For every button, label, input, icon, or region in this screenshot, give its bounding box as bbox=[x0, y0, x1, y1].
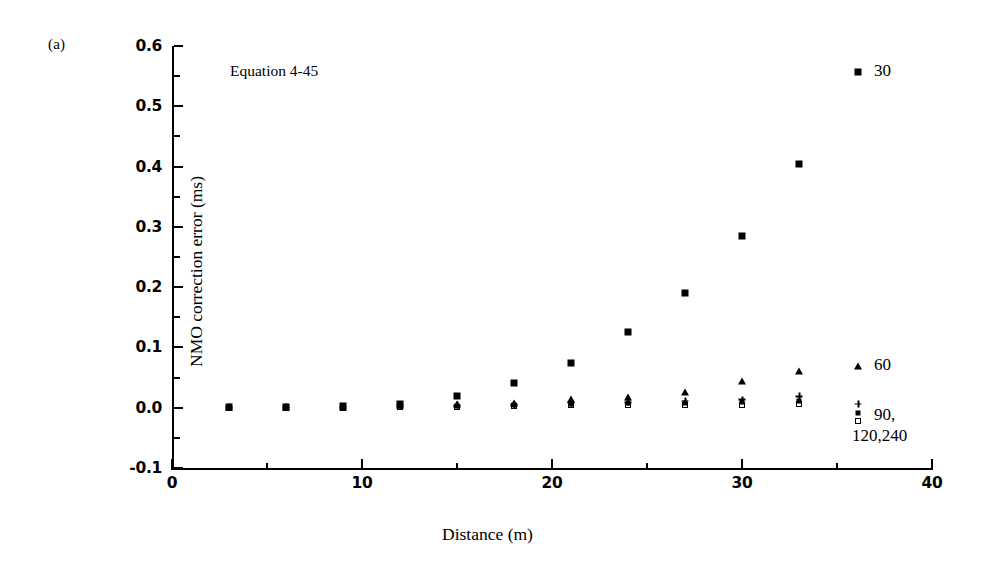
x-tick-minor bbox=[646, 463, 648, 470]
y-tick-major bbox=[174, 45, 183, 47]
marker-filled-square bbox=[511, 379, 518, 386]
marker-filled-square bbox=[682, 289, 689, 296]
data-point bbox=[682, 289, 689, 296]
y-tick-minor bbox=[174, 377, 180, 379]
panel-letter: (a) bbox=[48, 36, 65, 53]
legend-entry-60-swatch bbox=[854, 363, 862, 370]
data-point bbox=[739, 232, 746, 239]
marker-plus bbox=[682, 398, 689, 405]
legend-entry-group-swatch bbox=[855, 418, 861, 424]
marker-filled-square bbox=[739, 232, 746, 239]
equation-annotation: Equation 4-45 bbox=[230, 62, 318, 80]
x-axis-title: Distance (m) bbox=[0, 524, 985, 545]
x-tick-labels: 010203040 bbox=[172, 474, 932, 504]
data-point bbox=[739, 396, 746, 403]
legend-entry-30-swatch bbox=[855, 69, 862, 76]
x-tick-major bbox=[171, 459, 173, 470]
marker-plus bbox=[855, 401, 862, 408]
y-tick-major bbox=[174, 166, 183, 168]
data-point bbox=[568, 359, 575, 366]
y-tick-major bbox=[174, 105, 183, 107]
data-point bbox=[340, 402, 347, 409]
data-point bbox=[283, 403, 290, 410]
y-tick-major bbox=[174, 226, 183, 228]
data-point bbox=[796, 393, 803, 400]
y-tick-minor bbox=[174, 75, 180, 77]
y-tick-label: 0.0 bbox=[135, 399, 162, 417]
data-point bbox=[682, 398, 689, 405]
marker-filled-square bbox=[340, 402, 347, 409]
figure-canvas: (a) Equation 4-45 306090,120,240 -0.10.0… bbox=[0, 0, 985, 578]
y-tick-label: 0.4 bbox=[135, 158, 162, 176]
data-point bbox=[738, 377, 746, 384]
marker-triangle bbox=[567, 396, 575, 403]
y-tick-major bbox=[174, 407, 183, 409]
marker-triangle bbox=[738, 377, 746, 384]
y-tick-minor bbox=[174, 196, 180, 198]
x-tick-label: 20 bbox=[542, 474, 563, 492]
marker-triangle bbox=[624, 393, 632, 400]
marker-plus bbox=[739, 396, 746, 403]
data-point bbox=[625, 329, 632, 336]
marker-filled-square bbox=[568, 359, 575, 366]
x-tick-major bbox=[361, 459, 363, 470]
y-tick-minor bbox=[174, 316, 180, 318]
data-point bbox=[511, 379, 518, 386]
marker-filled-square bbox=[397, 401, 404, 408]
data-point bbox=[796, 160, 803, 167]
legend-entry-group-swatch bbox=[855, 401, 862, 408]
x-tick-major bbox=[741, 459, 743, 470]
data-point bbox=[226, 403, 233, 410]
y-tick-labels: -0.10.00.10.20.30.40.50.6 bbox=[96, 46, 162, 470]
x-axis-title-text: Distance (m) bbox=[442, 524, 533, 545]
marker-open-square bbox=[855, 418, 861, 424]
x-tick-label: 40 bbox=[922, 474, 943, 492]
y-tick-major bbox=[174, 286, 183, 288]
y-tick-minor bbox=[174, 256, 180, 258]
y-tick-label: 0.1 bbox=[135, 338, 162, 356]
marker-plus bbox=[796, 393, 803, 400]
marker-filled-square bbox=[283, 403, 290, 410]
x-tick-label: 30 bbox=[732, 474, 753, 492]
marker-small-square bbox=[856, 411, 861, 416]
x-tick-minor bbox=[456, 463, 458, 470]
data-point bbox=[624, 393, 632, 400]
x-tick-minor bbox=[836, 463, 838, 470]
x-tick-label: 0 bbox=[167, 474, 178, 492]
legend-entry-90-label: 90, bbox=[874, 405, 895, 425]
y-tick-label: 0.6 bbox=[135, 37, 162, 55]
marker-filled-square bbox=[625, 329, 632, 336]
marker-triangle bbox=[854, 363, 862, 370]
x-tick-label: 10 bbox=[352, 474, 373, 492]
x-tick-minor bbox=[266, 463, 268, 470]
marker-filled-square bbox=[226, 403, 233, 410]
legend-entry-60-label: 60 bbox=[874, 355, 891, 375]
y-tick-label: 0.5 bbox=[135, 97, 162, 115]
data-point bbox=[397, 401, 404, 408]
data-point bbox=[510, 399, 518, 406]
y-tick-minor bbox=[174, 135, 180, 137]
data-point bbox=[567, 396, 575, 403]
y-tick-label: -0.1 bbox=[129, 459, 162, 477]
marker-triangle bbox=[795, 367, 803, 374]
marker-triangle bbox=[510, 399, 518, 406]
legend-entry-120-240-label: 120,240 bbox=[852, 426, 907, 446]
data-point bbox=[681, 389, 689, 396]
legend-entry-30-label: 30 bbox=[874, 61, 891, 81]
marker-triangle bbox=[681, 389, 689, 396]
y-tick-minor bbox=[174, 437, 180, 439]
marker-filled-square bbox=[796, 160, 803, 167]
x-tick-major bbox=[551, 459, 553, 470]
y-tick-major bbox=[174, 467, 183, 469]
y-tick-major bbox=[174, 346, 183, 348]
y-tick-label: 0.3 bbox=[135, 218, 162, 236]
marker-triangle bbox=[453, 401, 461, 408]
marker-filled-square bbox=[454, 393, 461, 400]
plot-area: Equation 4-45 306090,120,240 bbox=[172, 46, 932, 470]
x-tick-major bbox=[931, 459, 933, 470]
data-point bbox=[453, 401, 461, 408]
marker-filled-square bbox=[855, 69, 862, 76]
legend-entry-group-swatch bbox=[856, 411, 861, 416]
y-tick-label: 0.2 bbox=[135, 278, 162, 296]
data-point bbox=[454, 393, 461, 400]
